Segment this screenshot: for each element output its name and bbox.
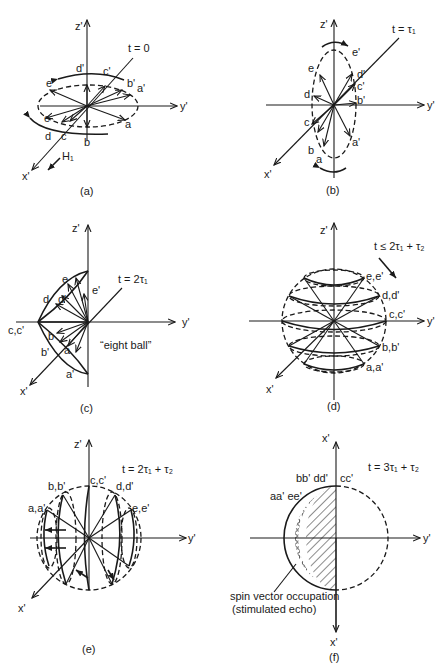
label-c: c	[304, 116, 310, 128]
rotation-arrow-top	[322, 42, 348, 47]
spin-vectors	[56, 278, 88, 352]
annotation-leader	[274, 564, 296, 592]
panel-b-diagram: z' y' x' t = τ₁ a b c d e a' b' c' d' e'…	[224, 0, 448, 220]
y-axis-label: y'	[180, 100, 188, 112]
label-dd: d,d'	[116, 480, 133, 492]
panel-e: z' y' x' t = 2τ₁ + τ₂ a,a' b,b' c,c' d,d…	[0, 440, 224, 663]
label-b: b	[84, 136, 90, 148]
caption: (d)	[327, 400, 340, 412]
label-cc: c,c'	[389, 308, 405, 320]
label-bb: b,b'	[382, 341, 399, 353]
label-b-prime: b'	[357, 94, 365, 106]
panel-c-diagram: z' y' x' t = 2τ₁ “eight ball” c,c' e d d…	[0, 220, 224, 440]
x-axis-label: x'	[20, 385, 28, 397]
label-c-prime: c'	[357, 80, 365, 92]
annotation-line-1: spin vector occupation	[230, 590, 339, 602]
label-b-prime: b'	[41, 346, 49, 358]
z-axis-label: z'	[75, 20, 83, 32]
label-b-prime: b'	[127, 77, 135, 89]
rotation-arrow-bottom	[320, 168, 346, 172]
label-ee: e,e'	[132, 502, 149, 514]
label-dd: d,d'	[382, 289, 399, 301]
panel-d-diagram: z' y' x' t ≤ 2τ₁ + τ₂ e,e' d,d' c,c' b,b…	[224, 220, 448, 440]
label-a: a	[64, 344, 71, 356]
label-e: e	[62, 273, 68, 285]
label-d-prime: d'	[76, 62, 84, 74]
label-b: b	[308, 144, 314, 156]
z-axis-label: z'	[320, 224, 328, 236]
label-b: b	[48, 330, 54, 342]
time-label: t = τ₁	[392, 23, 416, 35]
x-axis-label: x'	[18, 602, 26, 614]
label-d-prime: d'	[357, 68, 365, 80]
time-label: t = 0	[128, 42, 150, 54]
time-label: t = 3τ₁ + τ₂	[368, 461, 419, 473]
label-d: d	[43, 293, 49, 305]
label-e: e	[308, 62, 314, 74]
label-bb: b,b'	[48, 480, 65, 492]
label-d: d	[45, 130, 51, 142]
y-axis-label: y'	[427, 99, 435, 111]
label-e-prime: e'	[46, 77, 54, 89]
caption: (c)	[80, 402, 93, 414]
caption: (a)	[80, 185, 93, 197]
label-bbdd: bb' dd'	[296, 472, 328, 484]
label-aa: a,a'	[28, 502, 45, 514]
z-axis-label: z'	[72, 222, 80, 234]
time-label: t = 2τ₁ + τ₂	[122, 463, 173, 475]
label-e: e	[44, 112, 50, 124]
label-e-prime: e'	[92, 284, 100, 296]
label-cc: cc'	[340, 472, 353, 484]
y-axis-label: y'	[182, 316, 190, 328]
eight-ball-note: “eight ball”	[100, 339, 152, 351]
x-axis-bottom-label: x'	[330, 636, 338, 648]
panel-a: z' y' x' t = 0 H₁ a b c d e a' b' c' d' …	[0, 0, 224, 220]
x-axis-label: x'	[264, 168, 272, 180]
eight-ball-arcs	[38, 271, 88, 374]
label-c-prime: c'	[103, 65, 111, 77]
x-axis-label: x'	[22, 170, 30, 182]
label-a: a	[125, 118, 132, 130]
label-e-prime: e'	[352, 46, 360, 58]
label-aaee: aa' ee'	[270, 490, 302, 502]
time-label: t = 2τ₁	[118, 273, 148, 285]
label-cc: c,c'	[90, 474, 106, 486]
h1-label: H₁	[62, 150, 74, 162]
label-a-prime: a'	[137, 82, 145, 94]
label-aa: a,a'	[366, 361, 383, 373]
x-axis-top-label: x'	[322, 432, 330, 444]
panel-f-diagram: x' y' x' t = 3τ₁ + τ₂ bb' dd' cc' aa' ee…	[224, 440, 448, 663]
caption: (e)	[82, 643, 95, 655]
label-c: c	[61, 130, 67, 142]
label-d-prime: d'	[58, 293, 66, 305]
label-d: d	[304, 88, 310, 100]
label-a: a	[316, 153, 323, 165]
h1-field-arrow	[48, 158, 60, 170]
label-ee: e,e'	[366, 270, 383, 282]
label-a-prime: a'	[352, 136, 360, 148]
panel-f: x' y' x' t = 3τ₁ + τ₂ bb' dd' cc' aa' ee…	[224, 440, 448, 663]
label-a-prime: a'	[66, 368, 74, 380]
y-axis-label: y'	[188, 532, 196, 544]
panel-d: z' y' x' t ≤ 2τ₁ + τ₂ e,e' d,d' c,c' b,b…	[224, 220, 448, 440]
y-axis-label: y'	[423, 532, 431, 544]
label-cc: c,c'	[8, 324, 24, 336]
caption: (b)	[326, 184, 339, 196]
caption: (f)	[329, 651, 339, 663]
z-axis-label: z'	[74, 438, 82, 450]
panel-e-diagram: z' y' x' t = 2τ₁ + τ₂ a,a' b,b' c,c' d,d…	[0, 440, 224, 663]
panel-c: z' y' x' t = 2τ₁ “eight ball” c,c' e d d…	[0, 220, 224, 440]
time-label: t ≤ 2τ₁ + τ₂	[374, 240, 425, 252]
annotation-line-2: (stimulated echo)	[232, 603, 316, 615]
panel-a-diagram: z' y' x' t = 0 H₁ a b c d e a' b' c' d' …	[0, 0, 224, 220]
x-axis-label: x'	[266, 383, 274, 395]
panel-b: z' y' x' t = τ₁ a b c d e a' b' c' d' e'…	[224, 0, 448, 220]
y-axis-label: y'	[427, 315, 435, 327]
z-axis-label: z'	[320, 18, 328, 30]
